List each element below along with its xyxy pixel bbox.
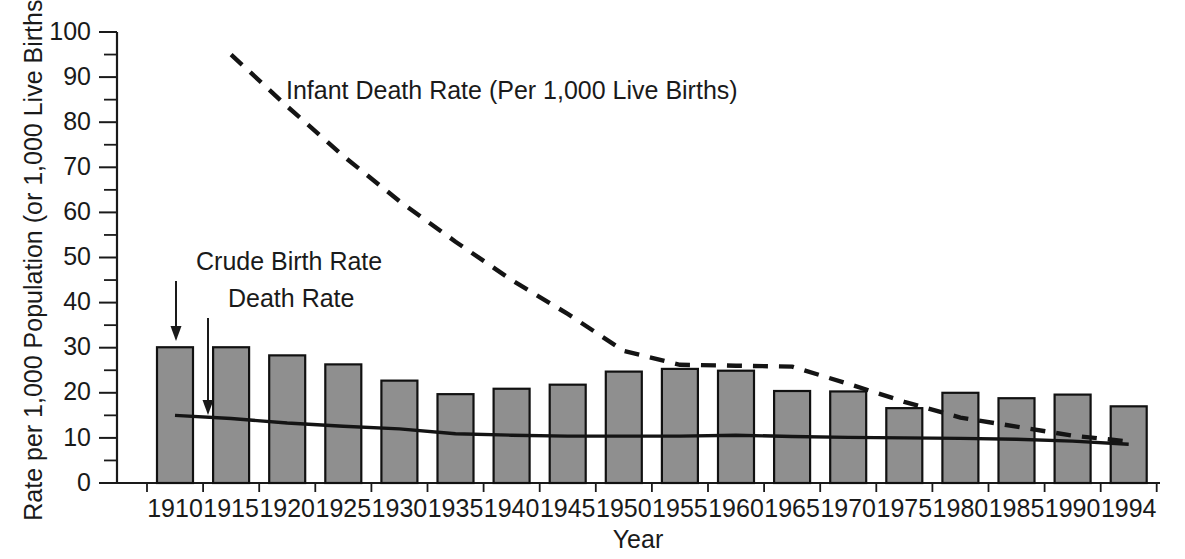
x-axis-tick-label: 1960 [708, 494, 764, 522]
x-axis-tick-label: 1965 [764, 494, 820, 522]
x-axis-tick-label: 1930 [372, 494, 428, 522]
x-axis-tick-label: 1970 [820, 494, 876, 522]
chart-svg: Rate per 1,000 Population (or 1,000 Live… [0, 0, 1185, 559]
annotation-infant-death-rate: Infant Death Rate (Per 1,000 Live Births… [286, 76, 738, 104]
bar [718, 371, 754, 483]
bar [325, 364, 361, 483]
y-axis-tick-label: 70 [63, 152, 91, 180]
y-axis-tick-label: 90 [63, 62, 91, 90]
x-axis-tick-labels: 1910191519201925193019351940194519501955… [147, 494, 1156, 522]
y-axis-tick-label: 40 [63, 287, 91, 315]
x-axis-tick-label: 1975 [876, 494, 932, 522]
y-axis-tick-label: 60 [63, 197, 91, 225]
x-axis-tick-label: 1945 [540, 494, 596, 522]
bar [213, 347, 249, 483]
bar-series-crude-birth-rate [157, 347, 1147, 483]
annotation-arrow-death-rate [203, 318, 214, 415]
bar [381, 381, 417, 483]
x-axis-tick-label: 1994 [1101, 494, 1157, 522]
x-axis-tick-label: 1915 [203, 494, 259, 522]
x-axis-title: Year [613, 525, 664, 553]
bar [550, 385, 586, 483]
y-axis-tick-label: 50 [63, 242, 91, 270]
x-axis-tick-label: 1955 [652, 494, 708, 522]
y-axis-tick-label: 0 [77, 468, 91, 496]
y-axis-title: Rate per 1,000 Population (or 1,000 Live… [19, 0, 47, 521]
x-axis-tick-label: 1985 [989, 494, 1045, 522]
y-axis-tick-label: 30 [63, 332, 91, 360]
annotation-arrow-crude-birth-rate [171, 281, 182, 341]
chart-container: Rate per 1,000 Population (or 1,000 Live… [0, 0, 1185, 559]
y-axis-ticks [99, 32, 117, 483]
x-axis-tick-label: 1910 [147, 494, 203, 522]
bar [269, 355, 305, 483]
x-axis-tick-label: 1980 [933, 494, 989, 522]
y-axis-tick-label: 20 [63, 377, 91, 405]
y-axis-tick-label: 80 [63, 107, 91, 135]
x-axis-tick-label: 1925 [315, 494, 371, 522]
x-axis-tick-label: 1990 [1045, 494, 1101, 522]
y-axis-tick-label: 100 [49, 17, 91, 45]
x-axis-tick-label: 1935 [428, 494, 484, 522]
x-axis-tick-label: 1920 [259, 494, 315, 522]
bar [662, 369, 698, 483]
bar [438, 394, 474, 483]
bar [886, 408, 922, 483]
x-axis-ticks [147, 483, 1157, 492]
x-axis-tick-label: 1940 [484, 494, 540, 522]
x-axis-tick-label: 1950 [596, 494, 652, 522]
bar [606, 372, 642, 483]
y-axis-tick-labels: 0102030405060708090100 [49, 17, 91, 496]
annotation-crude-birth-rate: Crude Birth Rate [196, 247, 382, 275]
annotation-death-rate: Death Rate [228, 284, 354, 312]
y-axis-tick-label: 10 [63, 423, 91, 451]
